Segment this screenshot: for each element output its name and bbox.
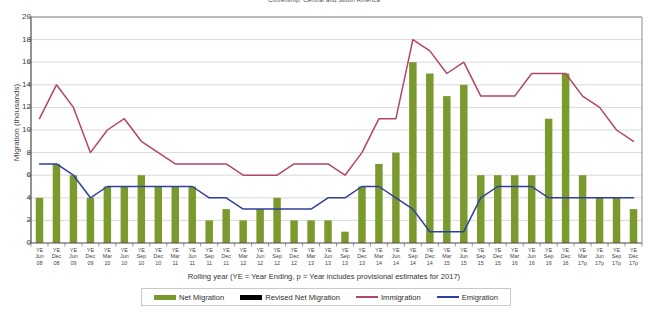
bar-net-migration — [36, 198, 43, 243]
bar-net-migration — [70, 175, 77, 243]
legend-label: Immigration — [381, 293, 421, 302]
legend-item[interactable]: Revised Net Migration — [240, 293, 340, 302]
legend-item[interactable]: Net Migration — [154, 293, 224, 302]
y-tick-label: 18 — [9, 36, 31, 44]
bar-net-migration — [358, 187, 365, 244]
bar-net-migration — [443, 96, 450, 243]
bar-net-migration — [579, 175, 586, 243]
bar-net-migration — [222, 209, 229, 243]
chart-title: Citizenship: Central and South America — [0, 0, 648, 6]
bar-net-migration — [562, 74, 569, 244]
bar-net-migration — [239, 220, 246, 243]
bar-net-migration — [596, 198, 603, 243]
legend-label: Revised Net Migration — [265, 293, 340, 302]
legend-item[interactable]: Emigration — [437, 293, 498, 302]
bar-net-migration — [477, 175, 484, 243]
bar-net-migration — [307, 220, 314, 243]
x-axis-title: Rolling year (YE = Year Ending, p = Year… — [0, 272, 648, 281]
bar-net-migration — [494, 175, 501, 243]
bar-net-migration — [630, 209, 637, 243]
bar-net-migration — [324, 220, 331, 243]
bar-net-migration — [290, 220, 297, 243]
bar-net-migration — [545, 119, 552, 243]
legend-swatch — [154, 295, 176, 300]
legend-item[interactable]: Immigration — [356, 293, 421, 302]
y-tick-label: 8 — [9, 149, 31, 157]
bar-net-migration — [172, 187, 179, 244]
bar-net-migration — [256, 209, 263, 243]
bar-net-migration — [104, 187, 111, 244]
bar-net-migration — [375, 164, 382, 243]
y-tick-label: 6 — [9, 171, 31, 179]
y-tick-label: 20 — [9, 13, 31, 21]
legend-swatch — [356, 296, 378, 298]
bar-net-migration — [53, 164, 60, 243]
bar-net-migration — [155, 187, 162, 244]
bar-net-migration — [205, 220, 212, 243]
bar-net-migration — [460, 85, 467, 243]
y-tick-label: 10 — [9, 126, 31, 134]
plot-area — [0, 0, 648, 316]
y-tick-label: 16 — [9, 58, 31, 66]
bar-net-migration — [341, 232, 348, 243]
bar-net-migration — [528, 175, 535, 243]
legend-label: Net Migration — [179, 293, 224, 302]
migration-chart-figure: Citizenship: Central and South America M… — [0, 0, 648, 316]
bar-net-migration — [189, 187, 196, 244]
bar-net-migration — [87, 198, 94, 243]
y-tick-label: 12 — [9, 103, 31, 111]
bar-net-migration — [121, 187, 128, 244]
legend-label: Emigration — [462, 293, 498, 302]
chart-legend: Net MigrationRevised Net MigrationImmigr… — [141, 288, 511, 306]
y-tick-label: 4 — [9, 194, 31, 202]
legend-swatch — [240, 295, 262, 300]
bar-net-migration — [273, 198, 280, 243]
legend-swatch — [437, 296, 459, 298]
bar-net-migration — [613, 198, 620, 243]
bar-net-migration — [409, 62, 416, 243]
y-axis-ticks: 02468101214161820 — [0, 0, 31, 316]
y-tick-label: 0 — [9, 239, 31, 247]
y-tick-label: 14 — [9, 81, 31, 89]
bar-net-migration — [511, 175, 518, 243]
bar-net-migration — [138, 175, 145, 243]
y-tick-label: 2 — [9, 216, 31, 224]
bar-net-migration — [426, 74, 433, 244]
